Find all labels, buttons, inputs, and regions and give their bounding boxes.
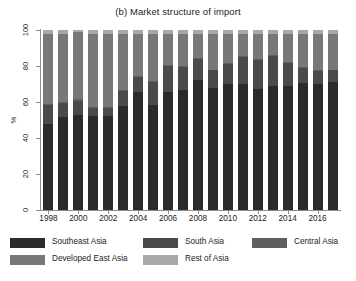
bar-1998[interactable] xyxy=(43,30,53,210)
bar-segment-developed-east-asia xyxy=(148,34,158,82)
y-tick-label-text: 80 xyxy=(22,62,30,70)
bar-2008[interactable] xyxy=(193,30,203,210)
legend-item-southeast-asia[interactable]: Southeast Asia xyxy=(10,236,107,249)
bar-segment-southeast-asia xyxy=(268,86,278,210)
bar-segment-south-asia xyxy=(238,57,248,84)
bar-2017[interactable] xyxy=(328,30,338,210)
bar-segment-southeast-asia xyxy=(298,83,308,210)
legend-item-rest-of-asia[interactable]: Rest of Asia xyxy=(143,253,229,266)
bar-segment-southeast-asia xyxy=(118,106,128,210)
bar-2016[interactable] xyxy=(313,30,323,210)
bar-segment-developed-east-asia xyxy=(283,34,293,63)
bar-segment-south-asia xyxy=(148,82,158,105)
bar-2006[interactable] xyxy=(163,30,173,210)
legend-label: Rest of Asia xyxy=(185,255,229,263)
bar-segment-developed-east-asia xyxy=(268,34,278,56)
bar-segment-developed-east-asia xyxy=(328,34,338,70)
bar-2009[interactable] xyxy=(208,30,218,210)
bar-segment-developed-east-asia xyxy=(253,34,263,59)
x-tick-label-2010: 2010 xyxy=(219,214,237,223)
bar-segment-south-asia xyxy=(43,105,53,124)
bar-segment-developed-east-asia xyxy=(118,34,128,91)
bar-segment-developed-east-asia xyxy=(298,34,308,67)
bar-2011[interactable] xyxy=(238,30,248,210)
bar-1999[interactable] xyxy=(58,30,68,210)
y-tick-mark-100 xyxy=(36,30,40,31)
bar-segment-south-asia xyxy=(118,91,128,105)
y-axis-title-text: % xyxy=(10,117,18,124)
bar-segment-south-asia xyxy=(253,60,263,90)
bar-segment-south-asia xyxy=(268,56,278,86)
bar-segment-southeast-asia xyxy=(43,124,53,210)
bar-segment-southeast-asia xyxy=(253,89,263,210)
bar-segment-south-asia xyxy=(283,63,293,86)
x-tick-label-2000: 2000 xyxy=(69,214,87,223)
bar-segment-south-asia xyxy=(298,68,308,83)
bar-2013[interactable] xyxy=(268,30,278,210)
bar-segment-south-asia xyxy=(223,64,233,84)
bar-segment-south-asia xyxy=(73,101,83,115)
y-tick-label-0: 0 xyxy=(18,205,34,215)
bar-segment-developed-east-asia xyxy=(208,34,218,70)
bar-segment-southeast-asia xyxy=(178,90,188,210)
legend-label: South Asia xyxy=(185,238,224,246)
bar-segment-southeast-asia xyxy=(328,82,338,210)
plot-area xyxy=(41,30,340,210)
y-tick-label-text: 60 xyxy=(22,98,30,106)
bar-2001[interactable] xyxy=(88,30,98,210)
legend-label: Southeast Asia xyxy=(52,238,107,246)
bar-2005[interactable] xyxy=(148,30,158,210)
bar-segment-southeast-asia xyxy=(208,88,218,210)
chart-title: (b) Market structure of import xyxy=(0,6,356,17)
x-axis-line xyxy=(40,210,341,211)
bar-segment-south-asia xyxy=(88,108,98,116)
legend-swatch-icon xyxy=(143,255,178,265)
chart-legend: Southeast AsiaSouth AsiaCentral AsiaDeve… xyxy=(0,236,356,276)
bar-segment-south-asia xyxy=(133,77,143,92)
bar-segment-developed-east-asia xyxy=(133,34,143,76)
bar-segment-south-asia xyxy=(313,71,323,84)
y-tick-label-40: 40 xyxy=(18,133,34,143)
legend-item-central-asia[interactable]: Central Asia xyxy=(252,236,338,249)
bar-segment-developed-east-asia xyxy=(58,34,68,102)
bar-2014[interactable] xyxy=(283,30,293,210)
bar-2002[interactable] xyxy=(103,30,113,210)
x-tick-label-2016: 2016 xyxy=(308,214,326,223)
bar-2004[interactable] xyxy=(133,30,143,210)
bar-2010[interactable] xyxy=(223,30,233,210)
bar-segment-southeast-asia xyxy=(313,84,323,210)
bar-2000[interactable] xyxy=(73,30,83,210)
legend-label: Developed East Asia xyxy=(52,255,128,263)
bar-segment-southeast-asia xyxy=(283,86,293,210)
bar-segment-south-asia xyxy=(208,70,218,88)
bar-segment-developed-east-asia xyxy=(43,34,53,104)
y-tick-mark-80 xyxy=(36,66,40,67)
y-tick-label-80: 80 xyxy=(18,61,34,71)
bar-segment-southeast-asia xyxy=(133,92,143,210)
chart-figure: (b) Market structure of import % 0204060… xyxy=(0,0,356,281)
x-tick-label-1998: 1998 xyxy=(39,214,57,223)
bar-segment-developed-east-asia xyxy=(73,32,83,100)
bar-segment-south-asia xyxy=(103,108,113,116)
bar-2012[interactable] xyxy=(253,30,263,210)
bar-segment-southeast-asia xyxy=(163,92,173,210)
legend-label: Central Asia xyxy=(294,238,338,246)
legend-swatch-icon xyxy=(10,238,45,248)
bar-2015[interactable] xyxy=(298,30,308,210)
y-tick-mark-60 xyxy=(36,102,40,103)
legend-item-developed-east-asia[interactable]: Developed East Asia xyxy=(10,253,128,266)
bar-2007[interactable] xyxy=(178,30,188,210)
bar-segment-developed-east-asia xyxy=(193,34,203,58)
y-tick-label-text: 100 xyxy=(22,24,30,37)
x-tick-label-2012: 2012 xyxy=(249,214,267,223)
y-tick-label-text: 20 xyxy=(22,170,30,178)
bar-segment-south-asia xyxy=(178,67,188,90)
bar-segment-southeast-asia xyxy=(88,116,98,210)
y-tick-label-text: 40 xyxy=(22,134,30,142)
y-tick-label-text: 0 xyxy=(22,208,30,212)
x-tick-label-2004: 2004 xyxy=(129,214,147,223)
bar-segment-southeast-asia xyxy=(223,84,233,210)
legend-item-south-asia[interactable]: South Asia xyxy=(143,236,224,249)
bar-segment-developed-east-asia xyxy=(178,34,188,66)
bar-2003[interactable] xyxy=(118,30,128,210)
